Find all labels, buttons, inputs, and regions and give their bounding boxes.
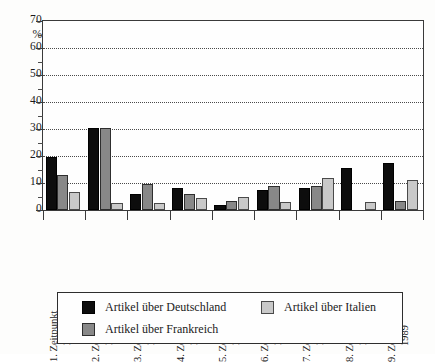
- bar-deutschland: [46, 157, 57, 210]
- x-axis-category: 7. Zeitpunkt1967: [300, 214, 330, 290]
- bar-group: [130, 21, 165, 210]
- y-axis-major-tick: [36, 183, 43, 184]
- x-axis-category: 4. Zeitpunkt1935: [174, 214, 204, 290]
- x-axis-category: 5. Zeitpunkt1946: [216, 214, 246, 290]
- y-axis-tick-label: 10: [8, 176, 42, 186]
- x-axis-category: 9. Zeitpunkt1989: [385, 214, 415, 290]
- bar-italien: [238, 197, 249, 211]
- y-axis-unit-label: %: [8, 28, 42, 40]
- y-axis-major-tick: [36, 102, 43, 103]
- bar-deutschland: [257, 190, 268, 210]
- bar-italien: [111, 203, 122, 210]
- bar-group: [299, 21, 334, 210]
- bar-italien: [196, 198, 207, 210]
- y-axis-major-tick: [36, 129, 43, 130]
- bar-frankreich: [100, 128, 111, 210]
- bar-deutschland: [383, 163, 394, 210]
- bar-frankreich: [184, 194, 195, 210]
- bar-deutschland: [299, 188, 310, 210]
- y-axis-major-tick: [36, 210, 43, 211]
- x-axis-category: 8. Zeitpunkt1979: [343, 214, 373, 290]
- bars-layer: [43, 21, 423, 210]
- bar-italien: [280, 202, 291, 210]
- y-axis-major-tick: [36, 156, 43, 157]
- bar-italien: [365, 202, 376, 210]
- bar-frankreich: [142, 184, 153, 210]
- y-axis-major-tick: [36, 21, 43, 22]
- y-axis-tick-label: 60: [8, 41, 42, 51]
- x-axis-category: 1. Zeitpunkt1904: [47, 214, 77, 290]
- legend-item-frankreich: Artikel über Frankreich: [82, 322, 218, 337]
- bar-group: [214, 21, 249, 210]
- legend-swatch-italien: [261, 301, 274, 314]
- bar-group: [172, 21, 207, 210]
- bar-group: [46, 21, 81, 210]
- y-axis-tick-label: 40: [8, 95, 42, 105]
- legend-swatch-frankreich: [82, 323, 95, 336]
- bar-frankreich: [57, 175, 68, 210]
- y-axis-major-tick: [36, 48, 43, 49]
- bar-group: [341, 21, 376, 210]
- bar-deutschland: [341, 168, 352, 210]
- bar-group: [383, 21, 418, 210]
- legend-label-frankreich: Artikel über Frankreich: [105, 322, 218, 337]
- legend-label-deutschland: Artikel über Deutschland: [105, 300, 226, 315]
- legend-item-deutschland: Artikel über Deutschland: [82, 300, 226, 315]
- legend-label-italien: Artikel über Italien: [284, 300, 376, 315]
- y-axis-tick-label: 20: [8, 149, 42, 159]
- bar-deutschland: [172, 188, 183, 210]
- legend-swatch-deutschland: [82, 301, 95, 314]
- bar-italien: [407, 180, 418, 210]
- bar-deutschland: [214, 205, 225, 210]
- bar-deutschland: [130, 194, 141, 210]
- y-axis-tick-label: 50: [8, 68, 42, 78]
- legend-item-italien: Artikel über Italien: [261, 300, 376, 315]
- y-axis-tick-label: 0: [8, 203, 42, 213]
- bar-deutschland: [88, 128, 99, 210]
- bar-frankreich: [395, 201, 406, 210]
- bar-frankreich: [311, 186, 322, 210]
- x-axis-category: 3. Zeitpunkt1925: [131, 214, 161, 290]
- x-axis-category: 2. Zeitpunkt1913: [89, 214, 119, 290]
- x-axis-category: 6. Zeitpunkt1958: [258, 214, 288, 290]
- bar-group: [257, 21, 292, 210]
- bar-group: [88, 21, 123, 210]
- y-axis-tick-label: 30: [8, 122, 42, 132]
- y-axis-major-tick: [36, 75, 43, 76]
- x-axis-labels: 1. Zeitpunkt19042. Zeitpunkt19133. Zeitp…: [0, 214, 435, 290]
- legend: Artikel über Deutschland Artikel über It…: [57, 292, 403, 344]
- bar-italien: [69, 192, 80, 210]
- bar-frankreich: [226, 201, 237, 210]
- y-axis-tick-label: 70: [8, 14, 42, 24]
- bar-italien: [154, 203, 165, 210]
- bar-frankreich: [268, 186, 279, 210]
- bar-italien: [322, 178, 333, 210]
